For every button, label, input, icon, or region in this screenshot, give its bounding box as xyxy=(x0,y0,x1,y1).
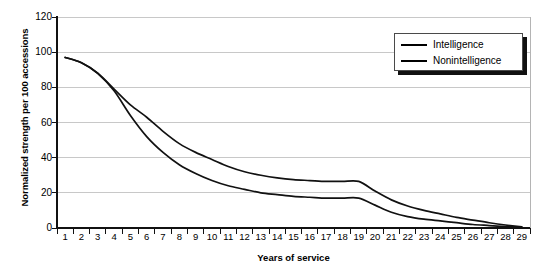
x-axis-tick-label: 14 xyxy=(272,231,283,243)
legend-label-intelligence: Intelligence xyxy=(433,40,484,50)
x-axis-tick-label: 23 xyxy=(419,231,430,243)
x-axis-tick-label: 26 xyxy=(468,231,479,243)
legend-line-swatch-intelligence xyxy=(401,44,427,46)
x-axis-tick-label: 28 xyxy=(500,231,511,243)
chart-legend: Intelligence Nonintelligence xyxy=(394,33,523,71)
x-axis-tick-label: 29 xyxy=(517,231,528,243)
x-axis-tick-label: 10 xyxy=(207,231,218,243)
x-axis-tick-label: 1 xyxy=(62,231,67,243)
chart-figure: Normalized strength per 100 accessions 1… xyxy=(0,0,550,277)
x-axis-tick-label: 13 xyxy=(256,231,267,243)
legend-item-intelligence: Intelligence xyxy=(401,37,484,53)
x-axis-tick-label: 19 xyxy=(353,231,364,243)
x-axis-tick-label: 27 xyxy=(484,231,495,243)
x-axis-tick-label: 21 xyxy=(386,231,397,243)
legend-line-swatch-nonintelligence xyxy=(401,60,427,62)
x-axis-tick-label: 7 xyxy=(160,231,165,243)
legend-label-nonintelligence: Nonintelligence xyxy=(433,56,501,66)
data-series-group xyxy=(65,57,522,227)
x-axis-tick-label: 12 xyxy=(239,231,250,243)
x-axis-tick-label: 6 xyxy=(144,231,149,243)
x-axis-tick-label: 15 xyxy=(288,231,299,243)
x-axis-tick-label: 20 xyxy=(370,231,381,243)
x-axis-tick-label: 11 xyxy=(223,231,233,243)
x-axis-tick-label: 22 xyxy=(402,231,413,243)
x-axis-tick-label: 24 xyxy=(435,231,446,243)
x-axis-tick-label: 4 xyxy=(111,231,116,243)
x-axis-tick-label: 3 xyxy=(95,231,100,243)
x-axis-tick-label: 18 xyxy=(337,231,348,243)
x-axis-tick-label: 2 xyxy=(79,231,84,243)
x-axis-tick-label: 8 xyxy=(177,231,182,243)
x-axis-tick-label: 9 xyxy=(193,231,198,243)
legend-item-nonintelligence: Nonintelligence xyxy=(401,53,501,69)
x-axis-tick-label: 25 xyxy=(451,231,462,243)
x-axis-title: Years of service xyxy=(57,252,530,263)
x-axis-tick-label: 16 xyxy=(305,231,316,243)
x-axis-tick-label: 17 xyxy=(321,231,332,243)
x-axis-tick-labels: 1234567891011121314151617181920212223242… xyxy=(57,231,530,247)
x-axis-tick-label: 5 xyxy=(128,231,133,243)
